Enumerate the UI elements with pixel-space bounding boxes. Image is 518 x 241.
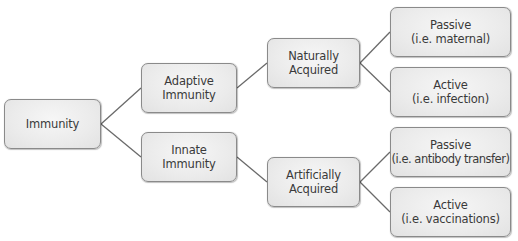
node-label-line2: Acquired [289, 63, 338, 77]
node-label-line1: Active [433, 198, 467, 212]
node-immunity: Immunity [4, 99, 101, 149]
node-label-line2: Immunity [162, 88, 215, 102]
edge-immunity-adaptive [101, 88, 141, 124]
node-adaptive-immunity: Adaptive Immunity [141, 63, 237, 113]
node-label-line2: (i.e. infection) [412, 92, 489, 106]
node-label-line1: Naturally [288, 49, 339, 63]
node-label-line2: Acquired [289, 182, 338, 196]
node-naturally-acquired: Naturally Acquired [267, 38, 360, 88]
edge-artificially-active [360, 182, 390, 212]
node-label-line1: Passive [430, 18, 471, 32]
node-passive-antibody-transfer: Passive (i.e. antibody transfer) [390, 127, 511, 177]
node-label-line1: Adaptive [164, 74, 213, 88]
node-label-line1: Innate [171, 143, 206, 157]
edge-naturally-passive [360, 32, 390, 63]
edge-immunity-innate [101, 124, 141, 157]
node-label-line2: (i.e. antibody transfer) [392, 152, 510, 166]
edge-artificially-passive [360, 152, 390, 182]
node-passive-maternal: Passive (i.e. maternal) [390, 7, 511, 57]
node-label-line1: Artificially [286, 168, 341, 182]
node-label-line2: Immunity [162, 157, 215, 171]
node-active-vaccinations: Active (i.e. vaccinations) [390, 187, 511, 237]
node-label-line2: (i.e. vaccinations) [401, 212, 499, 226]
immunity-tree-diagram: Immunity Adaptive Immunity Innate Immuni… [0, 0, 518, 241]
edge-adaptive-naturally [237, 63, 267, 88]
node-active-infection: Active (i.e. infection) [390, 67, 511, 117]
node-label-line2: (i.e. maternal) [411, 32, 490, 46]
node-artificially-acquired: Artificially Acquired [267, 157, 360, 207]
node-label: Immunity [26, 117, 79, 131]
node-label-line1: Passive [430, 138, 471, 152]
node-label-line1: Active [433, 78, 467, 92]
edge-innate-artificially [237, 157, 267, 182]
node-innate-immunity: Innate Immunity [141, 132, 237, 182]
edge-naturally-active [360, 63, 390, 92]
